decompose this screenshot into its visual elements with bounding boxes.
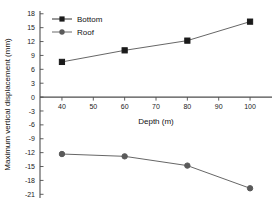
- data-point-marker: [247, 186, 252, 191]
- y-tick-label: 18: [27, 10, 35, 17]
- line-chart: 1815129630-3-6-9-12-15-18-21 40506070809…: [0, 0, 278, 213]
- y-axis-tick-labels: 1815129630-3-6-9-12-15-18-21: [25, 10, 35, 198]
- legend-label: Bottom: [77, 15, 103, 24]
- y-axis-title: Maximum vertical displacement (mm): [3, 38, 12, 171]
- series-line: [62, 154, 250, 188]
- series-bottom: [59, 19, 252, 64]
- legend-item-bottom[interactable]: Bottom: [52, 15, 103, 24]
- y-tick-label: 0: [31, 94, 35, 101]
- y-tick-label: -21: [25, 191, 35, 198]
- y-tick-label: -9: [29, 135, 35, 142]
- x-tick-label: 90: [215, 103, 223, 110]
- data-point-marker: [122, 48, 127, 53]
- y-tick-label: 9: [31, 52, 35, 59]
- chart-legend: BottomRoof: [52, 15, 103, 37]
- y-tick-label: 15: [27, 24, 35, 31]
- y-tick-label: -6: [29, 121, 35, 128]
- y-tick-label: -15: [25, 163, 35, 170]
- data-point-marker: [185, 163, 190, 168]
- x-tick-label: 50: [89, 103, 97, 110]
- y-tick-label: -18: [25, 177, 35, 184]
- data-point-marker: [122, 154, 127, 159]
- y-tick-label: -3: [29, 108, 35, 115]
- circle-marker-icon: [59, 29, 64, 34]
- legend-label: Roof: [77, 28, 95, 37]
- y-tick-label: 12: [27, 38, 35, 45]
- y-tick-label: 6: [31, 66, 35, 73]
- data-point-marker: [59, 59, 64, 64]
- x-tick-label: 60: [121, 103, 129, 110]
- data-point-marker: [185, 38, 190, 43]
- x-tick-label: 40: [58, 103, 66, 110]
- series-roof: [59, 151, 253, 191]
- legend-item-roof[interactable]: Roof: [52, 28, 95, 37]
- x-axis-tick-labels: 405060708090100: [58, 103, 256, 110]
- data-point-marker: [247, 19, 252, 24]
- y-tick-label: -12: [25, 149, 35, 156]
- x-tick-label: 70: [152, 103, 160, 110]
- y-tick-label: 3: [31, 80, 35, 87]
- square-marker-icon: [59, 16, 64, 21]
- x-tick-label: 100: [244, 103, 256, 110]
- x-axis-title: Depth (m): [138, 117, 174, 126]
- data-point-marker: [59, 151, 64, 156]
- x-tick-label: 80: [183, 103, 191, 110]
- chart-figure: 1815129630-3-6-9-12-15-18-21 40506070809…: [0, 0, 278, 213]
